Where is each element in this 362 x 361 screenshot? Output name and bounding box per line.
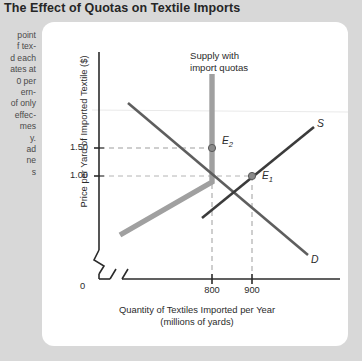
x-tick-label-900: 900 xyxy=(232,285,272,295)
x-axis-break-icon xyxy=(110,269,128,279)
equilibrium-point-e1 xyxy=(248,172,255,179)
margin-text-line: ne xyxy=(0,155,38,166)
margin-text-line: ad xyxy=(0,144,38,155)
equilibrium-label-e1-letter: E xyxy=(262,170,269,181)
margin-text-line: f tex- xyxy=(0,41,38,52)
margin-text-line: s xyxy=(0,167,38,178)
equilibrium-label-e2-sub: 2 xyxy=(229,140,233,149)
equilibrium-label-e2-letter: E xyxy=(222,135,229,146)
origin-label: 0 xyxy=(80,281,85,291)
margin-text-line: ern- xyxy=(0,87,38,98)
margin-text-line: ates at xyxy=(0,64,38,75)
margin-text-line: 0 per xyxy=(0,76,38,87)
quota-supply-curve xyxy=(120,74,212,235)
quota-annotation-line2: import quotas xyxy=(190,62,248,74)
margin-text-line: of only xyxy=(0,98,38,109)
x-axis-title: Quantity of Textiles Imported per Year (… xyxy=(82,304,312,327)
y-axis-break-icon xyxy=(94,250,104,274)
margin-text-line: mes xyxy=(0,121,38,132)
equilibrium-label-e2: E2 xyxy=(222,135,233,149)
demand-curve xyxy=(128,103,308,255)
demand-curve-label: D xyxy=(311,254,319,265)
supply-curve-label: S xyxy=(317,118,324,129)
margin-text-line: effec- xyxy=(0,110,38,121)
equilibrium-point-e2 xyxy=(208,144,215,151)
quota-supply-annotation: Supply with import quotas xyxy=(190,50,248,75)
margin-text-line: y. xyxy=(0,133,38,144)
equilibrium-label-e1: E1 xyxy=(262,170,273,184)
chart-panel: Price per Yard of Imported Textile ($) 1… xyxy=(42,22,348,346)
equilibrium-label-e1-sub: 1 xyxy=(269,175,273,184)
quota-annotation-line1: Supply with xyxy=(190,50,248,62)
y-axis-title: Price per Yard of Imported Textile ($) xyxy=(78,47,89,217)
y-tick-label-100: 1.00 xyxy=(54,170,88,180)
margin-text-line: d each xyxy=(0,53,38,64)
supply-curve xyxy=(202,127,314,218)
margin-column-text: point f tex- d each ates at 0 per ern- o… xyxy=(0,30,38,178)
x-axis-title-line1: Quantity of Textiles Imported per Year xyxy=(82,304,312,316)
x-axis-title-line2: (millions of yards) xyxy=(82,316,312,328)
margin-text-line: point xyxy=(0,30,38,41)
scan-artifact-line xyxy=(92,110,348,112)
figure-title: The Effect of Quotas on Textile Imports xyxy=(4,1,240,15)
y-tick-label-150: 1.50 xyxy=(54,142,88,152)
x-tick-label-800: 800 xyxy=(192,285,232,295)
